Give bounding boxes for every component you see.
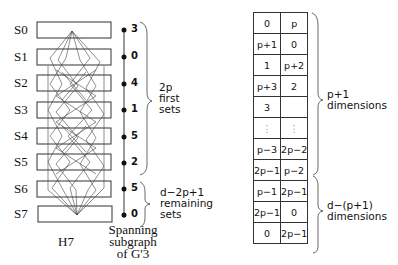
vertex-label: 4: [131, 77, 138, 88]
set-label-s0: S0: [14, 22, 28, 38]
dimension-table: 0p p+10 1p+2 p+32 3 ⋮⋮ p−32p−2 2p−1p−2 p…: [253, 12, 308, 244]
set-label-s2: S2: [14, 75, 28, 91]
brace-p1-dimensions-label: p+1 dimensions: [327, 89, 387, 111]
vertex-label: 0: [131, 50, 138, 61]
diagram-graphics: [0, 0, 398, 265]
brace-remaining-dimensions: [313, 176, 323, 253]
brace-p1-dimensions: [312, 13, 323, 175]
brace-remaining-dimensions-label: d−(p+1) dimensions: [327, 200, 387, 222]
vertex-label: 3: [131, 23, 138, 34]
set-label-s6: S6: [14, 181, 28, 197]
set-label-s4: S4: [14, 128, 28, 144]
vertex-label: 2: [131, 156, 138, 167]
brace-remaining-sets: [140, 182, 150, 227]
vertex-label: 1: [131, 103, 138, 114]
hypercube-edges: [48, 31, 104, 215]
vertex-label: 0: [131, 208, 138, 219]
set-label-s3: S3: [14, 102, 28, 118]
set-label-s7: S7: [14, 206, 28, 222]
brace-first-sets-label: 2p first sets: [159, 82, 181, 115]
brace-first-sets: [140, 22, 152, 175]
brace-remaining-sets-label: d−2p+1 remaining sets: [160, 187, 213, 220]
set-label-s5: S5: [14, 154, 28, 170]
caption-spanning-subgraph: Spanning subgraph of G'3: [104, 224, 162, 260]
vertex-label: 5: [131, 130, 138, 141]
set-label-s1: S1: [14, 49, 28, 65]
caption-h7: H7: [58, 236, 74, 248]
spanning-path: [122, 28, 127, 219]
vertex-label: 5: [131, 182, 138, 193]
